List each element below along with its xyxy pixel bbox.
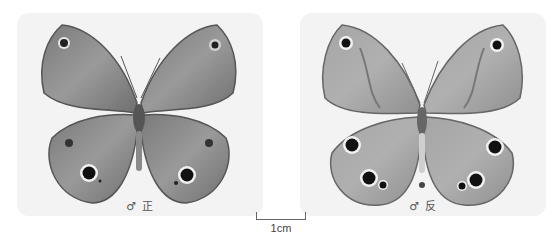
- upperside-caption: ♂ 正: [17, 197, 263, 213]
- underside-caption: ♂ 反: [300, 197, 546, 213]
- butterfly-upperside-image: [17, 13, 263, 216]
- underside-panel: ♂ 反: [300, 13, 546, 216]
- upperside-panel: ♂ 正: [17, 13, 263, 216]
- scale-bar: [256, 212, 306, 220]
- butterfly-underside-image: [300, 13, 546, 216]
- scale-bar-label: 1cm: [256, 222, 306, 234]
